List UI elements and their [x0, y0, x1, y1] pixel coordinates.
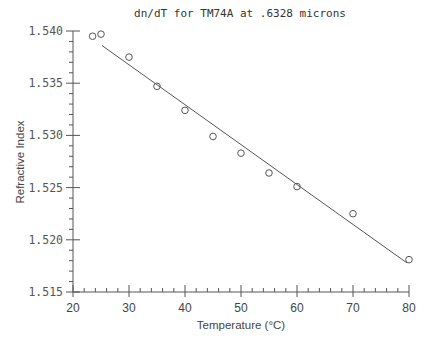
- data-point-marker: [126, 54, 133, 61]
- regression-line: [102, 46, 407, 263]
- x-tick-label: 60: [290, 301, 304, 315]
- x-tick-label: 20: [66, 301, 80, 315]
- x-axis-label: Temperature (°C): [197, 319, 285, 331]
- y-tick-label: 1.520: [28, 233, 63, 247]
- y-axis-label: Refractive Index: [14, 120, 26, 203]
- data-point-marker: [406, 256, 413, 263]
- fit-line: [102, 46, 407, 263]
- data-point-marker: [238, 150, 245, 157]
- y-tick-label: 1.535: [28, 76, 63, 90]
- y-tick-label: 1.540: [28, 24, 63, 38]
- y-tick-label: 1.530: [28, 128, 63, 142]
- x-tick-label: 40: [178, 301, 192, 315]
- x-tick-label: 80: [402, 301, 416, 315]
- x-tick-label: 70: [346, 301, 360, 315]
- chart: dn/dT for TM74A at .6328 microns 1.5151.…: [0, 0, 429, 343]
- data-point-marker: [266, 170, 273, 177]
- x-axis-ticks: 20304050607080: [66, 285, 416, 315]
- data-point-marker: [350, 210, 357, 217]
- data-point-marker: [89, 33, 96, 40]
- chart-title: dn/dT for TM74A at .6328 microns: [134, 7, 346, 20]
- data-point-marker: [210, 133, 217, 140]
- data-point-marker: [98, 31, 105, 38]
- y-tick-label: 1.515: [28, 285, 63, 299]
- y-tick-label: 1.525: [28, 181, 63, 195]
- data-points: [89, 31, 412, 263]
- y-axis-ticks: 1.5151.5201.5251.5301.5351.540: [28, 24, 80, 299]
- x-tick-label: 30: [122, 301, 136, 315]
- data-point-marker: [182, 107, 189, 114]
- x-tick-label: 50: [234, 301, 248, 315]
- axes: [73, 31, 409, 292]
